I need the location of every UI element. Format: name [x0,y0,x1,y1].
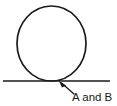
circle-shape [17,6,86,81]
geometry-canvas: A and B [0,0,117,106]
tangent-point-label: A and B [72,91,113,103]
geometry-diagram: A and B [0,0,117,106]
